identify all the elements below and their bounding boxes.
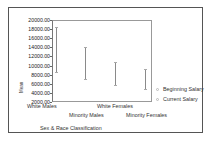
range-marker (114, 85, 117, 86)
x-category-minority-males: Minority Males (69, 112, 104, 118)
y-tick-label: 10000.00 (28, 63, 50, 69)
range-marker (114, 62, 117, 63)
legend-item-current-salary: Current Salary (156, 94, 204, 104)
x-category-white-males: White Males (27, 103, 57, 109)
range-marker (55, 27, 58, 28)
y-tick-label: 20000.00 (28, 17, 50, 23)
y-tick-label: 16000.00 (28, 35, 50, 41)
x-axis-title: Sex & Race Classification (40, 125, 102, 131)
y-tick-label: 6000.00 (31, 81, 50, 87)
range-marker (84, 47, 87, 48)
y-tick-label: 18000.00 (28, 26, 50, 32)
y-tick-label: 12000.00 (28, 53, 50, 59)
x-category-minority-females: Minority Females (126, 112, 167, 118)
range-line (85, 47, 86, 79)
plot-area (52, 20, 152, 102)
y-axis-label: Mean (19, 82, 24, 93)
legend-label: Beginning Salary (163, 86, 204, 92)
legend-label: Current Salary (163, 96, 198, 102)
y-tick-label: 4000.00 (31, 90, 50, 96)
range-line (115, 62, 116, 85)
range-line (145, 69, 146, 90)
legend-marker-icon (156, 88, 159, 91)
y-tick-label: 14000.00 (28, 44, 50, 50)
range-marker (55, 72, 58, 73)
range-line (56, 27, 57, 73)
x-category-white-females: White Females (97, 103, 133, 109)
range-marker (144, 89, 147, 90)
legend: Beginning Salary Current Salary (156, 84, 204, 104)
range-marker (144, 69, 147, 70)
range-marker (84, 79, 87, 80)
y-tick-label: 8000.00 (31, 72, 50, 78)
legend-marker-icon (156, 98, 159, 101)
legend-item-beginning-salary: Beginning Salary (156, 84, 204, 94)
